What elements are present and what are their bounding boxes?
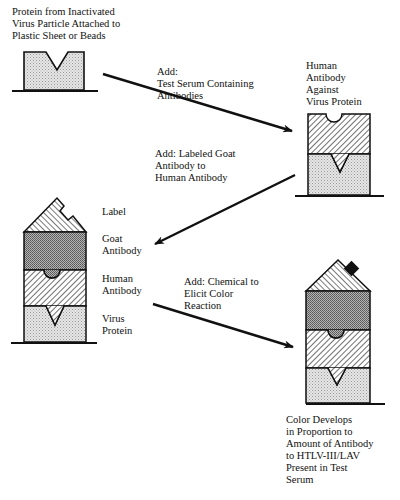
step2-human-antibody-stack — [295, 114, 384, 196]
arrow-2 — [155, 175, 295, 244]
step3-goat-antibody-label: Goat Antibody — [102, 233, 142, 257]
step1-plate-virus-protein — [12, 52, 98, 91]
step4-color-developed-stack — [306, 260, 385, 404]
arrow3-label: Add: Chemical to Elicit Color Reaction — [184, 276, 259, 312]
step3-human-antibody-label: Human Antibody — [102, 273, 142, 297]
step3-labeled-stack — [11, 198, 97, 343]
step1-caption: Protein from Inactivated Virus Particle … — [12, 6, 120, 42]
step2-caption: Human Antibody Against Virus Protein — [306, 60, 362, 108]
step3-label-label: Label — [102, 206, 126, 218]
step3-virus-protein-label: Virus Protein — [102, 313, 132, 337]
arrow1-label: Add: Test Serum Containing Antibodies — [157, 66, 254, 102]
step4-caption: Color Develops in Proportion to Amount o… — [286, 414, 374, 486]
arrow2-label: Add: Labeled Goat Antibody to Human Anti… — [155, 148, 235, 184]
